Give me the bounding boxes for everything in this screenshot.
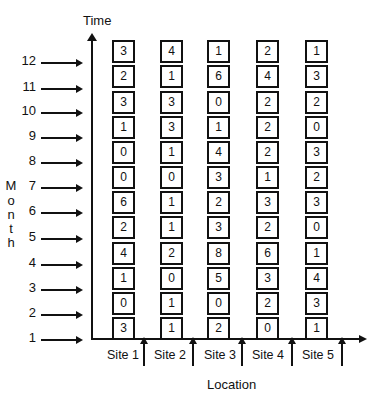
value-cell: 0 [256, 317, 279, 340]
value-cell: 2 [256, 216, 279, 239]
value-cell: 4 [112, 242, 135, 265]
tick-label-4: 4 [14, 255, 36, 270]
value-cell: 2 [112, 216, 135, 239]
tick-label-12: 12 [14, 53, 36, 68]
tick-arrow-icon [41, 264, 77, 266]
tick-label-1: 1 [14, 330, 36, 345]
value-cell: 1 [160, 216, 183, 239]
value-cell: 2 [256, 292, 279, 315]
tick-label-3: 3 [14, 280, 36, 295]
value-cell: 6 [207, 65, 230, 88]
value-cell: 3 [305, 191, 328, 214]
value-cell: 4 [305, 267, 328, 290]
tick-arrow-icon [41, 289, 77, 291]
tick-arrow-icon [41, 162, 77, 164]
value-cell: 2 [207, 191, 230, 214]
value-cell: 3 [305, 292, 328, 315]
value-cell: 2 [305, 91, 328, 114]
x-axis-title: Location [207, 377, 256, 392]
value-cell: 2 [160, 242, 183, 265]
value-cell: 2 [256, 116, 279, 139]
value-cell: 3 [207, 166, 230, 189]
time-axis [91, 40, 93, 340]
value-cell: 6 [256, 242, 279, 265]
value-cell: 6 [112, 191, 135, 214]
value-cell: 0 [160, 166, 183, 189]
value-cell: 1 [207, 116, 230, 139]
value-cell: 2 [112, 65, 135, 88]
value-cell: 1 [160, 191, 183, 214]
value-cell: 1 [256, 166, 279, 189]
value-cell: 2 [305, 166, 328, 189]
site-divider-arrow-icon [291, 343, 293, 366]
value-cell: 1 [112, 267, 135, 290]
value-cell: 2 [256, 141, 279, 164]
value-cell: 2 [256, 91, 279, 114]
value-cell: 4 [160, 40, 183, 63]
value-cell: 5 [207, 267, 230, 290]
tick-label-11: 11 [14, 79, 36, 94]
tick-arrow-icon [41, 137, 77, 139]
value-cell: 1 [160, 292, 183, 315]
value-cell: 3 [256, 267, 279, 290]
site-label-4: Site 4 [246, 348, 290, 362]
site-divider-arrow-icon [192, 343, 194, 366]
value-cell: 0 [305, 116, 328, 139]
tick-arrow-icon [41, 88, 77, 90]
tick-label-10: 10 [14, 103, 36, 118]
value-cell: 3 [112, 40, 135, 63]
tick-arrow-icon [41, 314, 77, 316]
tick-arrow-icon [41, 212, 77, 214]
value-cell: 3 [305, 141, 328, 164]
value-cell: 4 [256, 65, 279, 88]
value-cell: 0 [112, 141, 135, 164]
tick-label-9: 9 [14, 128, 36, 143]
tick-label-7: 7 [14, 178, 36, 193]
value-cell: 0 [207, 91, 230, 114]
value-cell: 3 [256, 191, 279, 214]
value-cell: 3 [112, 317, 135, 340]
tick-arrow-icon [41, 112, 77, 114]
tick-label-2: 2 [14, 305, 36, 320]
value-cell: 1 [305, 317, 328, 340]
tick-label-8: 8 [14, 153, 36, 168]
value-cell: 0 [112, 166, 135, 189]
y-axis-title: Time [83, 13, 111, 28]
value-cell: 3 [207, 216, 230, 239]
site-label-3: Site 3 [198, 348, 242, 362]
value-cell: 0 [160, 267, 183, 290]
value-cell: 3 [160, 116, 183, 139]
tick-label-5: 5 [14, 229, 36, 244]
site-divider-arrow-icon [143, 343, 145, 366]
value-cell: 1 [160, 141, 183, 164]
tick-arrow-icon [41, 187, 77, 189]
site-divider-arrow-icon [341, 343, 343, 366]
value-cell: 1 [305, 40, 328, 63]
value-cell: 0 [112, 292, 135, 315]
tick-arrow-icon [41, 339, 77, 341]
tick-arrow-icon [41, 238, 77, 240]
value-cell: 1 [160, 317, 183, 340]
value-cell: 1 [160, 65, 183, 88]
site-label-1: Site 1 [101, 348, 145, 362]
value-cell: 1 [305, 242, 328, 265]
value-cell: 0 [305, 216, 328, 239]
value-cell: 4 [207, 141, 230, 164]
value-cell: 3 [160, 91, 183, 114]
value-cell: 3 [305, 65, 328, 88]
value-cell: 3 [112, 91, 135, 114]
value-cell: 0 [207, 292, 230, 315]
value-cell: 1 [112, 116, 135, 139]
value-cell: 2 [207, 317, 230, 340]
value-cell: 8 [207, 242, 230, 265]
site-label-2: Site 2 [148, 348, 192, 362]
tick-label-6: 6 [14, 203, 36, 218]
value-cell: 2 [256, 40, 279, 63]
tick-arrow-icon [41, 62, 77, 64]
value-cell: 1 [207, 40, 230, 63]
site-divider-arrow-icon [241, 343, 243, 366]
site-label-5: Site 5 [296, 348, 340, 362]
